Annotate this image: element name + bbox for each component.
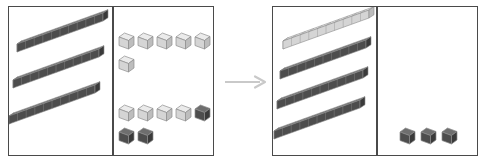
- transform-arrow-icon: [224, 74, 270, 90]
- unit-cube: [194, 104, 211, 122]
- unit-cube: [175, 104, 192, 122]
- unit-cube: [137, 104, 154, 122]
- unit-cube: [156, 32, 173, 50]
- unit-cube: [441, 127, 458, 145]
- before-ones-column: [113, 7, 213, 155]
- before-tens-column: [9, 7, 112, 155]
- unit-cube: [156, 104, 173, 122]
- unit-cube: [118, 127, 135, 145]
- after-tens-column: [273, 7, 376, 155]
- unit-cube: [118, 55, 135, 73]
- unit-cube: [118, 104, 135, 122]
- unit-cube: [399, 127, 416, 145]
- unit-cube: [175, 32, 192, 50]
- ten-rod: [9, 90, 103, 126]
- before-panel: [8, 6, 214, 156]
- unit-cube: [194, 32, 211, 50]
- unit-cube: [118, 32, 135, 50]
- unit-cube: [137, 127, 154, 145]
- unit-cube: [137, 32, 154, 50]
- after-panel: [272, 6, 478, 156]
- after-ones-column: [377, 7, 477, 155]
- regrouping-diagram: Base-ten regrouping: ten ones exchanged …: [0, 0, 485, 163]
- ten-rod: [273, 105, 368, 141]
- unit-cube: [420, 127, 437, 145]
